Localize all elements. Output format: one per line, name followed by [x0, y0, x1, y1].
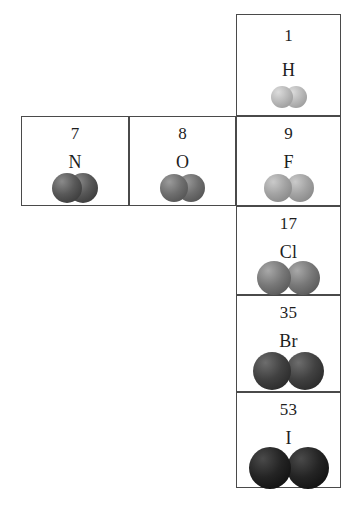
molecule-container-iodine — [237, 447, 340, 489]
atom-sphere — [264, 174, 292, 202]
element-symbol-fluorine: F — [283, 153, 293, 171]
atom-sphere — [257, 261, 291, 295]
molecule-model-i2 — [249, 447, 329, 489]
element-cell-fluorine: 9 F — [236, 116, 341, 206]
atomic-number-chlorine: 17 — [280, 215, 297, 232]
element-symbol-iodine: I — [285, 429, 291, 447]
molecule-container-fluorine — [237, 171, 340, 205]
element-cell-hydrogen: 1 H — [236, 14, 341, 116]
atom-sphere — [286, 261, 320, 295]
atom-sphere — [253, 352, 291, 390]
element-cell-iodine: 53 I — [236, 392, 341, 488]
element-symbol-chlorine: Cl — [280, 243, 297, 261]
element-cell-bromine: 35 Br — [236, 295, 341, 392]
molecule-model-f2 — [264, 174, 314, 202]
molecule-container-oxygen — [130, 171, 235, 205]
atom-sphere — [287, 447, 329, 489]
molecule-container-bromine — [237, 350, 340, 391]
molecule-model-n2 — [52, 173, 98, 203]
atom-sphere — [271, 86, 293, 108]
diatomic-elements-periodic-table-excerpt: 1 H 7 N 8 O 9 F 17 Cl 35 Br — [0, 0, 361, 508]
molecule-model-o2 — [160, 174, 205, 202]
element-symbol-oxygen: O — [176, 153, 189, 171]
element-cell-chlorine: 17 Cl — [236, 206, 341, 295]
atom-sphere — [249, 447, 291, 489]
molecule-model-br2 — [253, 352, 324, 390]
molecule-container-hydrogen — [237, 79, 340, 115]
molecule-container-chlorine — [237, 261, 340, 295]
atomic-number-oxygen: 8 — [178, 125, 187, 142]
atomic-number-nitrogen: 7 — [71, 125, 80, 142]
element-symbol-hydrogen: H — [282, 61, 295, 79]
atom-sphere — [286, 352, 324, 390]
atom-sphere — [52, 173, 82, 203]
element-cell-oxygen: 8 O — [129, 116, 236, 206]
atom-sphere — [160, 174, 188, 202]
element-symbol-nitrogen: N — [68, 153, 81, 171]
molecule-model-cl2 — [257, 261, 320, 295]
element-symbol-bromine: Br — [279, 332, 297, 350]
molecule-model-h2 — [271, 86, 307, 108]
atomic-number-hydrogen: 1 — [284, 27, 293, 44]
atomic-number-fluorine: 9 — [284, 125, 293, 142]
atomic-number-iodine: 53 — [280, 401, 297, 418]
molecule-container-nitrogen — [22, 171, 128, 205]
element-cell-nitrogen: 7 N — [21, 116, 129, 206]
atomic-number-bromine: 35 — [280, 304, 297, 321]
